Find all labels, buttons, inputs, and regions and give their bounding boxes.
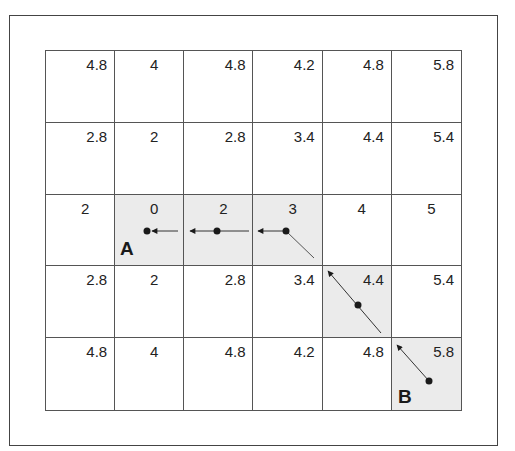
grid-cell: 2.8 [46, 123, 115, 195]
cell-value: 2 [184, 200, 252, 218]
cell-value: 4.2 [294, 343, 315, 361]
cell-value: 4.8 [225, 56, 246, 74]
cell-value: 2.8 [225, 271, 246, 289]
grid-cell: 2 [115, 266, 184, 338]
grid-cell: 3 [253, 195, 322, 267]
cell-value: 2 [46, 200, 114, 218]
cell-value: 4.4 [363, 128, 384, 146]
grid-cell: 4 [115, 338, 184, 410]
grid-cell: 2 [184, 195, 253, 267]
cell-value: 4.8 [363, 56, 384, 74]
grid-cell: 4 [115, 51, 184, 123]
cell-value: 0 [115, 200, 183, 218]
grid-cell: 4.8 [323, 338, 392, 410]
cell-value: 3 [253, 200, 321, 218]
grid-cell: 5 [392, 195, 461, 267]
cell-value: 2.8 [86, 271, 107, 289]
cell-value: 2.8 [86, 128, 107, 146]
grid-cell: 3.4 [253, 266, 322, 338]
grid-cell: 4.8 [46, 51, 115, 123]
cell-value: 2 [115, 271, 183, 289]
cell-value: 4 [115, 56, 183, 74]
grid-cell: 4.4 [323, 266, 392, 338]
cell-value: 4 [115, 343, 183, 361]
grid-cell: 4.4 [323, 123, 392, 195]
cell-value: 5.4 [433, 128, 454, 146]
grid-cell: 2.8 [184, 123, 253, 195]
grid-cell: 2.8 [184, 266, 253, 338]
grid-cell: 4.8 [323, 51, 392, 123]
grid-cell: 3.4 [253, 123, 322, 195]
grid-cell: 4.8 [184, 338, 253, 410]
grid-cell: 4 [323, 195, 392, 267]
cell-value: 5.8 [433, 343, 454, 361]
cell-value: 3.4 [294, 128, 315, 146]
grid-cell: 4.2 [253, 338, 322, 410]
cell-value: 5.4 [433, 271, 454, 289]
grid-cell: 2 [115, 123, 184, 195]
grid-cell: 5.4 [392, 123, 461, 195]
cell-value: 5.8 [433, 56, 454, 74]
cell-value: 5 [392, 200, 461, 218]
cell-value: 4.8 [86, 343, 107, 361]
grid-cell: 2.8 [46, 266, 115, 338]
grid-cell: 5.8 [392, 51, 461, 123]
label-a: A [120, 238, 134, 260]
cost-grid: 4.844.84.24.85.82.822.83.44.45.42023452.… [45, 50, 462, 411]
grid-cell: 4.8 [46, 338, 115, 410]
cell-value: 4.4 [363, 271, 384, 289]
grid-cell: 4.8 [184, 51, 253, 123]
cell-value: 4.2 [294, 56, 315, 74]
cell-value: 2 [115, 128, 183, 146]
cell-value: 4.8 [363, 343, 384, 361]
grid-cell: 4.2 [253, 51, 322, 123]
cell-value: 4.8 [225, 343, 246, 361]
cell-value: 2.8 [225, 128, 246, 146]
grid-cell: 5.4 [392, 266, 461, 338]
cell-value: 4.8 [86, 56, 107, 74]
cell-value: 4 [323, 200, 391, 218]
grid-cell: 2 [46, 195, 115, 267]
cell-value: 3.4 [294, 271, 315, 289]
label-b: B [398, 386, 412, 408]
